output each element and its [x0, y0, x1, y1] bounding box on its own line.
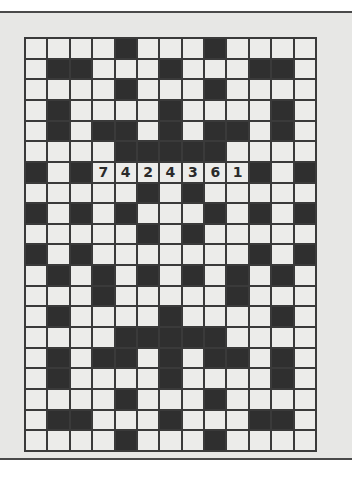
- grid-cell[interactable]: [48, 390, 68, 409]
- grid-cell[interactable]: [227, 245, 247, 264]
- grid-cell[interactable]: [250, 225, 270, 244]
- grid-cell[interactable]: [250, 39, 270, 58]
- grid-cell[interactable]: [71, 369, 91, 388]
- grid-cell[interactable]: [295, 369, 315, 388]
- grid-cell[interactable]: [138, 411, 158, 430]
- grid-cell[interactable]: [272, 328, 292, 347]
- grid-cell[interactable]: [272, 39, 292, 58]
- grid-cell[interactable]: [48, 328, 68, 347]
- grid-cell[interactable]: [71, 328, 91, 347]
- grid-cell[interactable]: [272, 163, 292, 182]
- grid-cell[interactable]: [205, 287, 225, 306]
- grid-cell[interactable]: [295, 184, 315, 203]
- grid-cell[interactable]: [93, 431, 113, 450]
- grid-cell[interactable]: [227, 101, 247, 120]
- grid-cell[interactable]: [48, 431, 68, 450]
- grid-cell[interactable]: [138, 287, 158, 306]
- grid-cell[interactable]: [71, 184, 91, 203]
- grid-cell[interactable]: [48, 204, 68, 223]
- grid-cell[interactable]: [250, 349, 270, 368]
- grid-cell[interactable]: [160, 225, 180, 244]
- grid-cell[interactable]: [295, 60, 315, 79]
- grid-cell[interactable]: [160, 431, 180, 450]
- grid-cell[interactable]: [227, 184, 247, 203]
- grid-cell[interactable]: [116, 184, 136, 203]
- grid-cell[interactable]: [93, 411, 113, 430]
- grid-cell[interactable]: [250, 390, 270, 409]
- grid-cell[interactable]: [138, 431, 158, 450]
- grid-cell[interactable]: [116, 307, 136, 326]
- grid-cell[interactable]: [250, 266, 270, 285]
- grid-cell[interactable]: [227, 39, 247, 58]
- grid-cell[interactable]: [205, 101, 225, 120]
- grid-cell[interactable]: [295, 431, 315, 450]
- grid-cell[interactable]: [160, 204, 180, 223]
- grid-cell[interactable]: [295, 101, 315, 120]
- grid-cell[interactable]: [227, 142, 247, 161]
- grid-cell[interactable]: [227, 369, 247, 388]
- grid-cell[interactable]: [205, 184, 225, 203]
- grid-cell[interactable]: [71, 39, 91, 58]
- grid-cell[interactable]: [227, 80, 247, 99]
- grid-cell[interactable]: [183, 60, 203, 79]
- grid-cell[interactable]: [26, 411, 46, 430]
- grid-cell[interactable]: [250, 369, 270, 388]
- grid-cell[interactable]: [116, 60, 136, 79]
- grid-cell[interactable]: [93, 328, 113, 347]
- grid-cell[interactable]: [160, 80, 180, 99]
- grid-cell[interactable]: [26, 101, 46, 120]
- grid-cell[interactable]: [138, 245, 158, 264]
- grid-cell[interactable]: [93, 245, 113, 264]
- grid-cell[interactable]: [48, 80, 68, 99]
- grid-cell[interactable]: [116, 287, 136, 306]
- grid-cell[interactable]: [272, 287, 292, 306]
- grid-cell[interactable]: [227, 225, 247, 244]
- grid-cell[interactable]: [138, 204, 158, 223]
- grid-cell[interactable]: [205, 225, 225, 244]
- grid-cell[interactable]: [183, 80, 203, 99]
- grid-cell[interactable]: [26, 122, 46, 141]
- grid-cell[interactable]: [93, 80, 113, 99]
- grid-cell[interactable]: [183, 390, 203, 409]
- grid-cell[interactable]: [272, 204, 292, 223]
- grid-cell[interactable]: [71, 101, 91, 120]
- grid-cell[interactable]: [138, 307, 158, 326]
- grid-cell[interactable]: [295, 39, 315, 58]
- grid-cell[interactable]: [272, 225, 292, 244]
- grid-cell[interactable]: [48, 39, 68, 58]
- grid-cell[interactable]: [26, 307, 46, 326]
- grid-cell[interactable]: [93, 307, 113, 326]
- grid-cell[interactable]: [205, 266, 225, 285]
- grid-cell[interactable]: [48, 184, 68, 203]
- grid-cell[interactable]: [138, 349, 158, 368]
- grid-cell[interactable]: [295, 266, 315, 285]
- grid-cell[interactable]: [183, 101, 203, 120]
- grid-cell[interactable]: [71, 122, 91, 141]
- grid-cell[interactable]: [250, 184, 270, 203]
- grid-cell[interactable]: [116, 411, 136, 430]
- grid-cell[interactable]: [48, 245, 68, 264]
- grid-cell[interactable]: [295, 142, 315, 161]
- grid-cell[interactable]: [272, 245, 292, 264]
- grid-cell[interactable]: [250, 287, 270, 306]
- grid-cell[interactable]: [26, 390, 46, 409]
- grid-cell[interactable]: [295, 328, 315, 347]
- grid-cell[interactable]: [71, 225, 91, 244]
- grid-cell[interactable]: [138, 39, 158, 58]
- grid-cell[interactable]: [205, 411, 225, 430]
- grid-cell[interactable]: [160, 184, 180, 203]
- grid-cell[interactable]: [138, 80, 158, 99]
- grid-cell[interactable]: [160, 287, 180, 306]
- grid-cell[interactable]: [138, 369, 158, 388]
- grid-cell[interactable]: [250, 101, 270, 120]
- grid-cell[interactable]: [116, 369, 136, 388]
- grid-cell[interactable]: [227, 204, 247, 223]
- grid-cell[interactable]: [93, 204, 113, 223]
- grid-cell[interactable]: [227, 328, 247, 347]
- grid-cell[interactable]: [26, 142, 46, 161]
- grid-cell[interactable]: [295, 390, 315, 409]
- grid-cell[interactable]: [295, 307, 315, 326]
- grid-cell[interactable]: [250, 328, 270, 347]
- grid-cell[interactable]: [138, 60, 158, 79]
- grid-cell[interactable]: [26, 349, 46, 368]
